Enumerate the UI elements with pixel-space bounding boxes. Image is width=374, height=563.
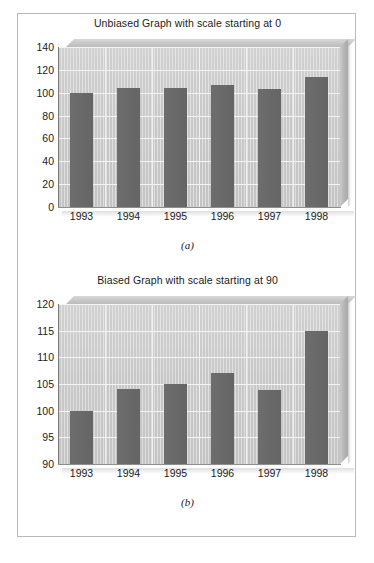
- figure-frame: Unbiased Graph with scale starting at 0 …: [17, 13, 356, 537]
- x-axis-a: 199319941995199619971998: [58, 210, 340, 228]
- plot-area-a: 020406080100120140 199319941995199619971…: [18, 39, 357, 235]
- y-tick-label-100: 100: [18, 87, 54, 99]
- x-tick-label-1998: 1998: [305, 210, 328, 222]
- bar-1996: [211, 373, 235, 464]
- plot-3d-body-b: [58, 296, 350, 472]
- bar-1994: [117, 389, 141, 464]
- bar-1995: [164, 384, 188, 464]
- plot-area-b: 9095100105110115120 19931994199519961997…: [18, 296, 357, 492]
- chart-title-a: Unbiased Graph with scale starting at 0: [18, 17, 357, 29]
- gridline-x-3: [199, 304, 200, 464]
- bar-1997: [258, 89, 282, 207]
- x-tick-label-1997: 1997: [258, 467, 281, 479]
- bar-1993: [70, 411, 94, 464]
- x-tick-label-1996: 1996: [211, 210, 234, 222]
- y-axis-line-a: [58, 47, 59, 207]
- plot-right-shadow-a: [348, 43, 352, 207]
- y-axis-line-b: [58, 304, 59, 464]
- chart-title-b: Biased Graph with scale starting at 90: [18, 274, 357, 286]
- bar-1996: [211, 85, 235, 207]
- plot-front-face-a: [58, 47, 340, 207]
- y-axis-a: 020406080100120140: [18, 39, 58, 207]
- x-tick-label-1998: 1998: [305, 467, 328, 479]
- gridline-x-1: [105, 47, 106, 207]
- plot-front-face-b: [58, 304, 340, 464]
- plot-right-shadow-b: [348, 300, 352, 464]
- gridline-x-4: [246, 304, 247, 464]
- plot-3d-body-a: [58, 39, 350, 215]
- bar-1995: [164, 88, 188, 207]
- x-tick-label-1994: 1994: [117, 467, 140, 479]
- y-tick-label-0: 0: [18, 201, 54, 213]
- figure-page: Unbiased Graph with scale starting at 0 …: [0, 0, 374, 563]
- y-axis-b: 9095100105110115120: [18, 296, 58, 464]
- gridline-x-2: [152, 304, 153, 464]
- x-tick-label-1995: 1995: [164, 467, 187, 479]
- x-tick-label-1996: 1996: [211, 467, 234, 479]
- x-tick-label-1995: 1995: [164, 210, 187, 222]
- x-axis-line-b: [58, 464, 341, 465]
- y-tick-label-95: 95: [18, 431, 54, 443]
- x-tick-label-1997: 1997: [258, 210, 281, 222]
- gridline-x-1: [105, 304, 106, 464]
- panel-caption-a: (a): [18, 239, 357, 251]
- x-axis-line-a: [58, 207, 341, 208]
- panel-caption-b: (b): [18, 496, 357, 508]
- gridline-x-2: [152, 47, 153, 207]
- plot-right-face-b: [340, 296, 348, 464]
- y-tick-label-40: 40: [18, 155, 54, 167]
- y-tick-label-120: 120: [18, 64, 54, 76]
- y-tick-label-80: 80: [18, 110, 54, 122]
- chart-panel-a: Unbiased Graph with scale starting at 0 …: [18, 17, 357, 267]
- x-tick-label-1994: 1994: [117, 210, 140, 222]
- y-tick-label-120: 120: [18, 298, 54, 310]
- y-tick-label-20: 20: [18, 178, 54, 190]
- y-tick-label-100: 100: [18, 405, 54, 417]
- gridline-x-4: [246, 47, 247, 207]
- bar-1993: [70, 93, 94, 207]
- x-tick-label-1993: 1993: [70, 467, 93, 479]
- gridline-x-3: [199, 47, 200, 207]
- x-axis-b: 199319941995199619971998: [58, 467, 340, 485]
- y-tick-label-105: 105: [18, 378, 54, 390]
- gridline-x-5: [293, 47, 294, 207]
- plot-right-face-a: [340, 39, 348, 207]
- y-tick-label-115: 115: [18, 325, 54, 337]
- x-tick-label-1993: 1993: [70, 210, 93, 222]
- gridline-x-5: [293, 304, 294, 464]
- bar-1997: [258, 390, 282, 464]
- y-tick-label-90: 90: [18, 458, 54, 470]
- y-tick-label-110: 110: [18, 351, 54, 363]
- plot-top-face-a: [66, 39, 356, 47]
- bar-1998: [305, 77, 329, 207]
- bar-1994: [117, 88, 141, 207]
- chart-panel-b: Biased Graph with scale starting at 90 9…: [18, 274, 357, 524]
- y-tick-label-60: 60: [18, 132, 54, 144]
- y-tick-label-140: 140: [18, 41, 54, 53]
- bar-1998: [305, 331, 329, 464]
- plot-top-face-b: [66, 296, 356, 304]
